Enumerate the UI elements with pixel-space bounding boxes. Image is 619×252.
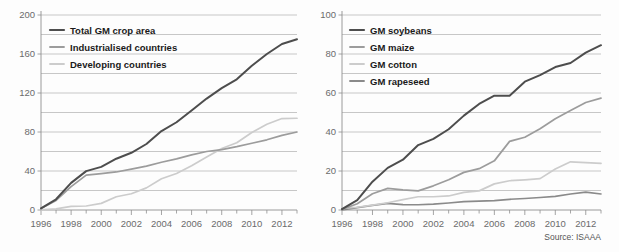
chart-panel-total-gm-area: 0408012016020019961998200020022004200620… <box>0 0 310 252</box>
x-tick-label-1996: 1996 <box>30 218 51 229</box>
data-line-gm-rapeseed <box>342 192 601 210</box>
y-tick-labels-group: 04080120160200 <box>19 9 41 215</box>
line-chart-left: 0408012016020019961998200020022004200620… <box>0 0 310 252</box>
legend-label-gm-maize: GM maize <box>370 42 414 53</box>
y-tick-label-60: 60 <box>325 87 336 98</box>
x-tick-label-2010: 2010 <box>545 218 566 229</box>
source-label: Source: ISAAA <box>544 232 601 242</box>
legend-label-gm-soybeans: GM soybeans <box>370 25 432 36</box>
y-tick-labels-group: 020406080100 <box>320 9 342 215</box>
x-tick-label-2010: 2010 <box>241 218 262 229</box>
legend-label-industrialised-countries: Industrialised countries <box>70 42 177 53</box>
x-tick-label-2008: 2008 <box>211 218 232 229</box>
chart-panel-gm-crops-by-type: 0204060801001996199820002002200420062008… <box>310 0 619 252</box>
x-tick-label-2002: 2002 <box>121 218 142 229</box>
x-tick-labels-group: 199619982000200220042006200820102012 <box>331 210 601 229</box>
legend-label-developing-countries: Developing countries <box>70 59 167 70</box>
legend-label-gm-rapeseed: GM rapeseed <box>370 76 430 87</box>
y-tick-label-0: 0 <box>331 204 336 215</box>
x-tick-label-2000: 2000 <box>392 218 413 229</box>
y-tick-label-40: 40 <box>24 165 35 176</box>
x-tick-label-1996: 1996 <box>331 218 352 229</box>
y-tick-label-80: 80 <box>24 126 35 137</box>
x-tick-label-2002: 2002 <box>423 218 444 229</box>
y-tick-label-0: 0 <box>30 204 35 215</box>
data-line-gm-maize <box>342 98 601 209</box>
x-tick-label-2006: 2006 <box>484 218 505 229</box>
line-chart-right: 0204060801001996199820002002200420062008… <box>310 0 619 252</box>
x-tick-label-1998: 1998 <box>362 218 383 229</box>
y-tick-label-160: 160 <box>19 48 35 59</box>
y-tick-label-80: 80 <box>325 48 336 59</box>
legend-group: GM soybeansGM maizeGM cottonGM rapeseed <box>350 25 432 87</box>
y-tick-label-120: 120 <box>19 87 35 98</box>
y-tick-label-40: 40 <box>325 126 336 137</box>
x-tick-label-2008: 2008 <box>514 218 535 229</box>
x-tick-label-2012: 2012 <box>271 218 292 229</box>
x-tick-label-2000: 2000 <box>91 218 112 229</box>
y-tick-label-100: 100 <box>320 9 336 20</box>
data-line-industrialised-countries <box>41 132 297 209</box>
series-group <box>342 45 601 210</box>
x-tick-label-2004: 2004 <box>151 218 172 229</box>
x-tick-labels-group: 199619982000200220042006200820102012 <box>30 210 297 229</box>
y-tick-label-20: 20 <box>325 165 336 176</box>
legend-label-total-gm-crop-area: Total GM crop area <box>70 25 156 36</box>
x-tick-label-2012: 2012 <box>575 218 596 229</box>
y-tick-label-200: 200 <box>19 9 35 20</box>
x-tick-label-2006: 2006 <box>181 218 202 229</box>
x-tick-label-2004: 2004 <box>453 218 474 229</box>
data-line-gm-soybeans <box>342 45 601 209</box>
legend-group: Total GM crop areaIndustrialised countri… <box>50 25 177 70</box>
x-tick-label-1998: 1998 <box>61 218 82 229</box>
legend-label-gm-cotton: GM cotton <box>370 59 417 70</box>
gm-crop-area-figure: 0408012016020019961998200020022004200620… <box>0 0 619 252</box>
